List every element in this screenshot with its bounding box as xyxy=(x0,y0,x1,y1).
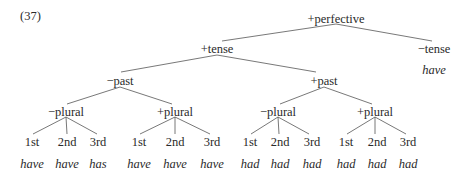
form-minus-tense: have xyxy=(422,64,446,77)
verb-form: had xyxy=(241,158,260,171)
person-label: 2nd xyxy=(271,136,290,149)
node-minus-plural-past: −plural xyxy=(260,106,296,119)
person-label: 3rd xyxy=(90,136,107,149)
example-number: (37) xyxy=(20,10,41,23)
person-label: 1st xyxy=(132,136,147,149)
person-label: 2nd xyxy=(368,136,387,149)
verb-form: had xyxy=(368,158,387,171)
verb-form: had xyxy=(271,158,290,171)
verb-form: have xyxy=(55,158,79,171)
verb-form: has xyxy=(89,158,106,171)
person-label: 3rd xyxy=(304,136,321,149)
person-label: 1st xyxy=(339,136,354,149)
verb-form: have xyxy=(200,158,224,171)
verb-form: have xyxy=(163,158,187,171)
verb-form: have xyxy=(127,158,151,171)
node-minus-plural-present: −plural xyxy=(48,106,84,119)
node-minus-tense: −tense xyxy=(418,43,451,56)
node-plus-plural-present: +plural xyxy=(157,106,193,119)
person-label: 3rd xyxy=(204,136,221,149)
person-label: 2nd xyxy=(58,136,77,149)
node-plus-past: +past xyxy=(310,75,337,88)
person-label: 2nd xyxy=(166,136,185,149)
node-plus-plural-past: +plural xyxy=(357,106,393,119)
person-label: 1st xyxy=(25,136,40,149)
verb-form: had xyxy=(399,158,418,171)
node-plus-tense: +tense xyxy=(201,43,234,56)
verb-form: had xyxy=(303,158,322,171)
person-label: 3rd xyxy=(400,136,417,149)
node-minus-past: −past xyxy=(106,75,133,88)
verb-form: have xyxy=(20,158,44,171)
verb-form: had xyxy=(337,158,356,171)
node-perfective: +perfective xyxy=(307,13,364,26)
person-label: 1st xyxy=(243,136,258,149)
